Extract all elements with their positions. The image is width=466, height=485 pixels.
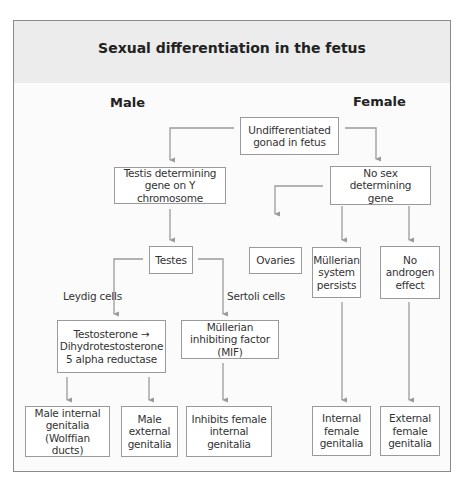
node-testis-determining-gene: Testis determining gene on Y chromosome — [114, 167, 226, 204]
node-mullerian-inhibiting-factor: Müllerian inhibiting factor (MIF) — [181, 320, 279, 359]
label-sertoli-cells: Sertoli cells — [227, 290, 285, 302]
node-testes: Testes — [149, 246, 193, 274]
node-male-external-genitalia: Male external genitalia — [121, 406, 178, 457]
node-mullerian-system-persists: Müllerian system persists — [312, 247, 361, 298]
node-male-internal-genitalia: Male internal genitalia (Wolffian ducts) — [25, 406, 110, 457]
node-no-androgen-effect: No androgen effect — [380, 246, 440, 299]
node-internal-female-genitalia: Internal female genitalia — [312, 406, 371, 456]
label-leydig-cells: Leydig cells — [63, 290, 122, 302]
node-undifferentiated-gonad: Undifferentiated gonad in fetus — [240, 117, 339, 155]
node-inhibits-female-internal-genitalia: Inhibits female internal genitalia — [186, 406, 272, 457]
node-no-sex-determining-gene: No sex determining gene — [330, 166, 431, 205]
node-testosterone: Testosterone → Dihydrotestosterone 5 alp… — [57, 320, 166, 373]
node-ovaries: Ovaries — [249, 247, 302, 274]
node-external-female-genitalia: External female genitalia — [380, 406, 440, 456]
